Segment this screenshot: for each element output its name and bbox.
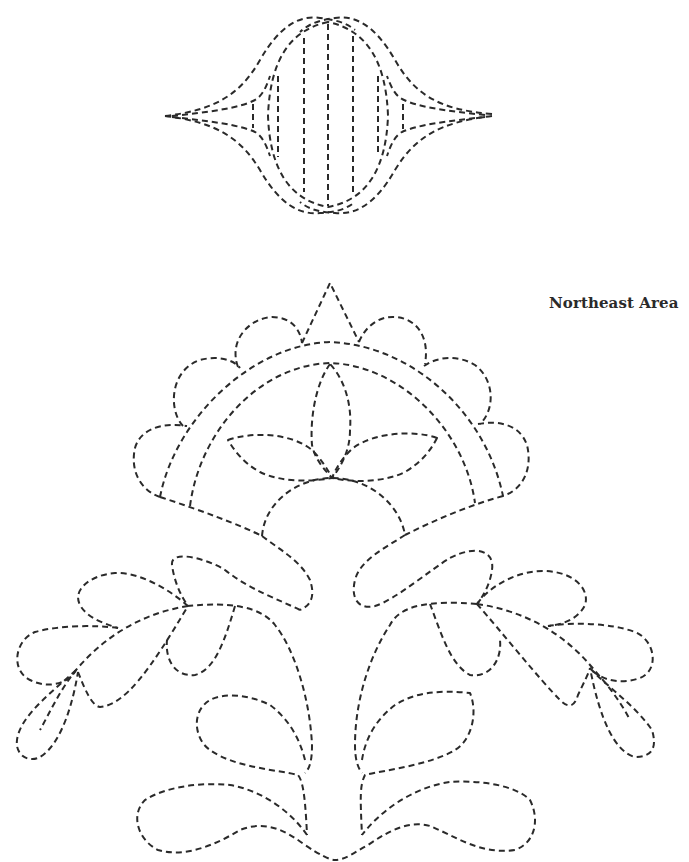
left-feather-spray [17,536,313,835]
tulip-bud-border-motif [165,17,492,213]
quilting-pattern-diagram [0,0,689,862]
crown-arch-motif [134,283,529,536]
area-label: Northeast Area [549,294,679,312]
right-feather-spray [354,535,654,835]
base-scroll-motif [137,782,535,860]
